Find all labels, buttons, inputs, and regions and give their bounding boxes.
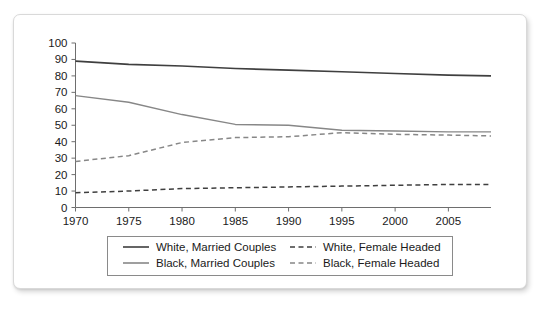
legend-label-black-female-headed: Black, Female Headed — [323, 257, 439, 269]
x-tick-label: 1975 — [116, 215, 142, 227]
x-tick-label: 1970 — [63, 215, 89, 227]
x-tick-label: 1990 — [276, 215, 302, 227]
y-tick-label: 50 — [55, 119, 68, 131]
y-tick-label: 40 — [55, 136, 68, 148]
legend-label-white-married-couples: White, Married Couples — [156, 241, 276, 253]
y-tick-label: 90 — [55, 53, 68, 65]
legend-label-black-married-couples: Black, Married Couples — [156, 257, 275, 269]
series-line-white-female-headed — [76, 184, 492, 192]
y-axis-ticks — [72, 43, 76, 208]
y-tick-label: 0 — [61, 202, 67, 214]
x-axis-ticks — [76, 208, 449, 212]
line-chart-figure: 0102030405060708090100 19701975198019851… — [0, 0, 542, 317]
x-tick-label: 2000 — [382, 215, 408, 227]
y-tick-label: 100 — [48, 37, 67, 49]
series-line-black-married-couples — [76, 96, 492, 132]
y-axis-tick-labels: 0102030405060708090100 — [48, 37, 67, 214]
y-tick-label: 30 — [55, 152, 68, 164]
x-axis-tick-labels: 19701975198019851990199520002005 — [63, 215, 461, 227]
x-tick-label: 1995 — [329, 215, 355, 227]
x-tick-label: 1980 — [169, 215, 195, 227]
x-tick-label: 2005 — [436, 215, 462, 227]
y-tick-label: 20 — [55, 169, 68, 181]
chart-legend: White, Married CouplesWhite, Female Head… — [108, 237, 453, 276]
chart-svg: 0102030405060708090100 19701975198019851… — [0, 0, 542, 317]
y-tick-label: 60 — [55, 103, 68, 115]
y-tick-label: 80 — [55, 70, 68, 82]
legend-label-white-female-headed: White, Female Headed — [323, 241, 441, 253]
y-tick-label: 10 — [55, 185, 68, 197]
y-tick-label: 70 — [55, 86, 68, 98]
series-line-white-married-couples — [76, 61, 492, 76]
x-tick-label: 1985 — [223, 215, 249, 227]
chart-series-group — [76, 61, 492, 193]
screenshot-root: 0102030405060708090100 19701975198019851… — [0, 0, 542, 317]
series-line-black-female-headed — [76, 133, 492, 162]
